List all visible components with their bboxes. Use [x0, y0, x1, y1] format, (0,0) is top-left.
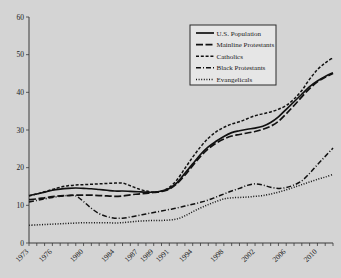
chart-background	[0, 0, 341, 278]
y-tick-label: 60	[17, 13, 25, 22]
line-chart: 0102030405060 19731976198019841987198919…	[0, 0, 341, 278]
legend-label: Catholics	[217, 53, 244, 61]
y-tick-label: 40	[17, 88, 25, 97]
legend-label: Black Protestants	[217, 64, 266, 72]
legend-label: Mainline Protestants	[217, 41, 275, 49]
y-tick-label: 20	[17, 163, 25, 172]
y-tick-label: 50	[17, 50, 25, 59]
legend-label: U.S. Population	[217, 30, 262, 38]
legend-label: Evangelicals	[217, 76, 253, 84]
y-tick-label: 10	[17, 201, 25, 210]
y-tick-label: 30	[17, 126, 25, 135]
chart-container: 0102030405060 19731976198019841987198919…	[0, 0, 341, 278]
y-tick-label: 0	[20, 239, 24, 248]
